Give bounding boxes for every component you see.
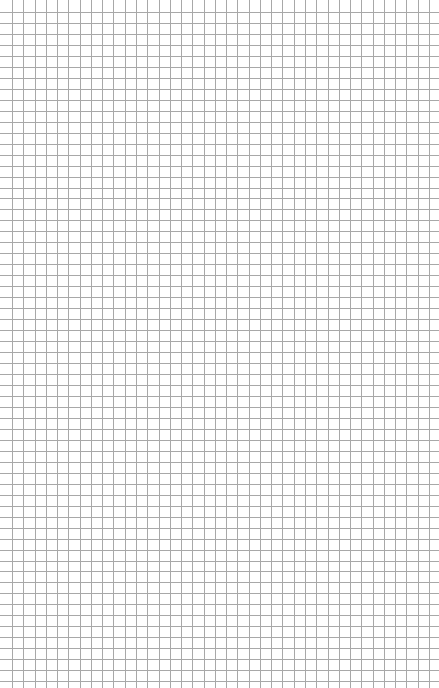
grid-lines [0,0,439,688]
graph-paper-sheet [0,0,439,688]
